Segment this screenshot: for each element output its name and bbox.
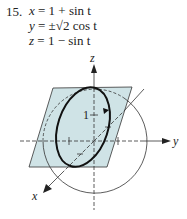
y-arrow-icon	[162, 138, 171, 144]
x-arrow-icon	[43, 184, 52, 193]
x-label: x	[31, 189, 38, 203]
z-label: z	[89, 51, 95, 65]
3d-figure: z y x 1	[0, 0, 187, 219]
z-arrow-icon	[91, 64, 97, 73]
tick-label-1: 1	[83, 108, 89, 122]
y-label: y	[172, 134, 179, 148]
